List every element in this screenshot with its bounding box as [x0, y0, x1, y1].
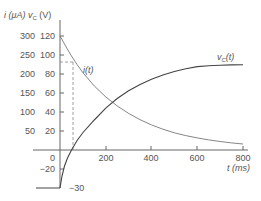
svg-text:100: 100 [20, 107, 35, 117]
svg-text:0: 0 [50, 153, 55, 163]
x-axis-title: t (ms) [227, 163, 250, 173]
initial-voltage-label: −30 [69, 183, 84, 193]
vc-curve-label: vC(t) [217, 52, 234, 63]
svg-text:600: 600 [189, 153, 204, 163]
svg-text:200: 200 [98, 153, 113, 163]
svg-text:20: 20 [45, 126, 55, 136]
y-ticks [60, 36, 64, 169]
svg-text:300: 300 [20, 31, 35, 41]
svg-text:−20: −20 [40, 164, 55, 174]
y-tick-labels-voltage: 120 100 80 60 40 20 0 −20 [40, 31, 55, 174]
svg-text:200: 200 [20, 69, 35, 79]
svg-text:250: 250 [20, 50, 35, 60]
vc-curve [60, 65, 243, 188]
current-curve-label: i(t) [83, 65, 94, 75]
y-axis-title: i (μA) vC (V) [4, 10, 51, 21]
svg-text:50: 50 [25, 126, 35, 136]
x-ticks [106, 146, 243, 150]
rc-transient-chart: 120 100 80 60 40 20 0 −20 300 250 200 15… [0, 0, 261, 201]
y-tick-labels-current: 300 250 200 150 100 50 [20, 31, 35, 136]
svg-text:400: 400 [143, 153, 158, 163]
svg-text:100: 100 [40, 50, 55, 60]
svg-text:800: 800 [235, 153, 250, 163]
svg-text:120: 120 [40, 31, 55, 41]
dashed-marker [60, 62, 73, 150]
svg-text:40: 40 [45, 107, 55, 117]
svg-text:60: 60 [45, 88, 55, 98]
x-tick-labels: 200 400 600 800 [98, 153, 250, 163]
svg-text:150: 150 [20, 88, 35, 98]
svg-text:80: 80 [45, 69, 55, 79]
